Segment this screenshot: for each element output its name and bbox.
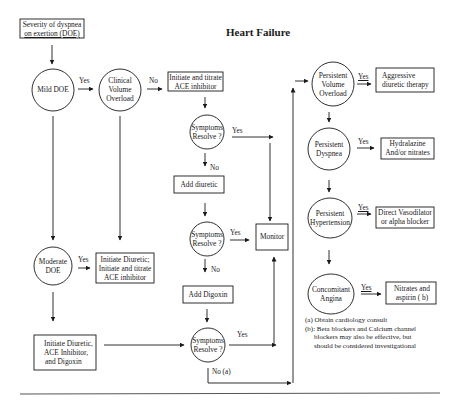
diuretic-ace-digoxin-label: Initiate Diuretic, ACE Inhibitor, and Di… (38, 339, 96, 366)
persistent-hypertension-label: Persistent Hypertension (306, 209, 354, 227)
na-line-2: aspirin ( b) (386, 293, 438, 302)
start-line-1: Severity of dyspnea (20, 20, 84, 29)
edge-label-sym3-no: No (a) (212, 368, 231, 377)
edge-label-pvo-yes: Yes (358, 73, 368, 82)
footnote-a: (a) Obtain cardiology consult (305, 316, 416, 325)
sym2-line-1: Symptoms (190, 230, 224, 239)
da-line-3: ACE inhibitor (96, 273, 154, 282)
ca-line-2: Angina (307, 294, 355, 303)
monitor-label: Monitor (256, 232, 288, 241)
edge-label-sym2-no: No (211, 266, 220, 275)
footnote-b: (b): Beta blockers and Calcium channel (305, 325, 416, 334)
hy-line-2: And/or nitrates (381, 148, 434, 157)
persistent-volume-label: Persistent Volume Overload (312, 71, 354, 98)
add-diuretic-text: Add diuretic (174, 180, 224, 189)
add-diuretic-label: Add diuretic (174, 180, 224, 189)
ad-line-2: diuretic therapy (376, 80, 434, 89)
add-digoxin-label: Add Digoxin (183, 290, 233, 299)
na-line-1: Nitrates and (386, 284, 438, 293)
cv-line-2: Volume (99, 85, 141, 94)
edge-label-sym1-no: No (210, 164, 219, 173)
diagram-title: Heart Failure (226, 26, 290, 38)
edge-label-pd-yes: Yes (358, 138, 368, 147)
ace-line-1: Initiate and titrate (168, 73, 223, 82)
vd-line-2: or alpha blocker (376, 217, 434, 226)
ad-line-1: Aggressive (376, 71, 434, 80)
sym3-line-2: Resolve ? (191, 345, 225, 354)
dad-line-1: Initiate Diuretic, (38, 339, 96, 348)
edge-label-moderate-yes: Yes (78, 256, 88, 265)
sym3-line-1: Symptoms (191, 336, 225, 345)
footnotes: (a) Obtain cardiology consult (b): Beta … (305, 316, 416, 350)
edge-label-sym3-yes: Yes (237, 331, 247, 340)
hydralazine-label: Hydralazine And/or nitrates (381, 139, 434, 157)
vd-line-1: Direct Vasodilator (376, 208, 434, 217)
cv-line-1: Clinical (99, 76, 141, 85)
pd-line-1: Persistent (308, 140, 350, 149)
diuretic-ace-label: Initiate Diuretic; Initiate and titrate … (96, 255, 154, 282)
add-digoxin-text: Add Digoxin (183, 290, 233, 299)
da-line-2: Initiate and titrate (96, 264, 154, 273)
mod-line-1: Moderate (34, 257, 72, 266)
start-line-2: on exertion (DOE) (20, 29, 84, 38)
monitor-text: Monitor (256, 232, 288, 241)
hy-line-1: Hydralazine (381, 139, 434, 148)
footnote-b-cont-2: should be considered investigational (305, 342, 416, 351)
cv-line-3: Overload (99, 94, 141, 103)
persistent-dyspnea-label: Persistent Dyspnea (308, 140, 350, 158)
ace-titrate-label: Initiate and titrate ACE inhibitor (168, 73, 223, 91)
dad-line-3: and Digoxin (38, 357, 96, 366)
ace-line-2: ACE inhibitor (168, 82, 223, 91)
symptoms-2-label: Symptoms Resolve ? (190, 230, 224, 248)
sym1-line-2: Resolve ? (190, 132, 224, 141)
mild-doe-text: Mild DOE (32, 85, 74, 94)
moderate-doe-label: Moderate DOE (34, 257, 72, 275)
concomitant-angina-label: Concomitant Angina (307, 285, 355, 303)
edge-label-mild-yes: Yes (79, 77, 89, 86)
pd-line-2: Dyspnea (308, 149, 350, 158)
aggressive-diuretic-label: Aggressive diuretic therapy (376, 71, 434, 89)
edge-label-ca-yes: Yes (361, 284, 371, 293)
pvo-line-3: Overload (312, 89, 354, 98)
dad-line-2: ACE Inhibitor, (38, 348, 96, 357)
clinical-volume-label: Clinical Volume Overload (99, 76, 141, 103)
start-label: Severity of dyspnea on exertion (DOE) (20, 20, 84, 38)
mild-doe-label: Mild DOE (32, 85, 74, 94)
ph-line-2: Hypertension (306, 218, 354, 227)
bottom-rule (20, 393, 440, 394)
da-line-1: Initiate Diuretic; (96, 255, 154, 264)
sym1-line-1: Symptoms (190, 123, 224, 132)
pvo-line-2: Volume (312, 80, 354, 89)
pvo-line-1: Persistent (312, 71, 354, 80)
edge-label-ph-yes: Yes (358, 204, 368, 213)
ca-line-1: Concomitant (307, 285, 355, 294)
ph-line-1: Persistent (306, 209, 354, 218)
footnote-b-cont-1: blockers may also be effective, but (305, 333, 416, 342)
mod-line-2: DOE (34, 266, 72, 275)
nitrates-aspirin-label: Nitrates and aspirin ( b) (386, 284, 438, 302)
sym2-line-2: Resolve ? (190, 239, 224, 248)
symptoms-1-label: Symptoms Resolve ? (190, 123, 224, 141)
edge-label-sym2-yes: Yes (230, 229, 240, 238)
edge-label-sym1-yes: Yes (232, 127, 242, 136)
symptoms-3-label: Symptoms Resolve ? (191, 336, 225, 354)
edge-label-clinical-no: No (149, 77, 158, 86)
vasodilator-label: Direct Vasodilator or alpha blocker (376, 208, 434, 226)
